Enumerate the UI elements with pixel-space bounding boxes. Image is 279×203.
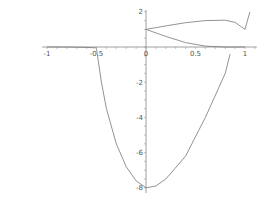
chart-svg: -1-0.500.512-2-4-6-8 <box>0 0 279 203</box>
series-upper-branch <box>146 12 250 30</box>
y-tick-label: -4 <box>136 114 144 122</box>
x-tick-label: 1 <box>243 50 247 58</box>
x-tick-label: 0 <box>144 50 148 58</box>
series-parabola <box>97 49 231 188</box>
y-tick-label: -2 <box>136 79 143 87</box>
y-tick-label: -8 <box>136 184 143 192</box>
y-tick-label: 2 <box>139 8 143 16</box>
series-lower-branch <box>146 29 245 47</box>
plot-area: -1-0.500.512-2-4-6-8 <box>0 0 279 203</box>
series-tail-left <box>47 47 97 48</box>
x-tick-label: 0.5 <box>190 50 201 58</box>
x-tick-label: -1 <box>44 50 51 58</box>
y-tick-label: -6 <box>136 149 144 157</box>
